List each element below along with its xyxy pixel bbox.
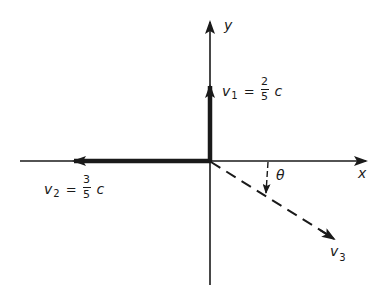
x-axis-label: x	[358, 166, 366, 180]
y-axis-label: y	[224, 18, 232, 32]
v2-equals: =	[66, 183, 77, 196]
v1-fraction: 2 5	[261, 76, 269, 102]
v3-subscript: 3	[339, 252, 345, 263]
v2-subscript: 2	[53, 189, 59, 199]
v3-symbol: v	[330, 243, 338, 259]
v1-subscript: 1	[231, 91, 237, 101]
v2-label: v2 = 3 5 c	[44, 176, 104, 202]
v1-unit: c	[275, 84, 283, 98]
v1-equals: =	[244, 85, 255, 98]
v1-denominator: 5	[261, 91, 268, 103]
theta-symbol: θ	[276, 167, 285, 183]
theta-label: θ	[276, 168, 285, 182]
origin-point	[208, 159, 212, 163]
v3-vector-arrowhead	[320, 230, 334, 239]
x-axis-label-text: x	[358, 165, 366, 181]
v2-unit: c	[97, 182, 105, 196]
v1-numerator: 2	[261, 76, 268, 88]
v2-fraction: 3 5	[83, 174, 91, 200]
v3-vector-dashed-line	[211, 162, 333, 238]
y-axis-label-text: y	[224, 17, 232, 33]
v2-symbol: v	[44, 182, 52, 196]
v2-numerator: 3	[83, 174, 90, 186]
v2-denominator: 5	[83, 189, 90, 201]
v3-label: v3	[330, 244, 346, 258]
v1-symbol: v	[222, 84, 230, 98]
theta-angle-indicator	[266, 162, 268, 193]
v1-label: v1 = 2 5 c	[222, 78, 282, 104]
